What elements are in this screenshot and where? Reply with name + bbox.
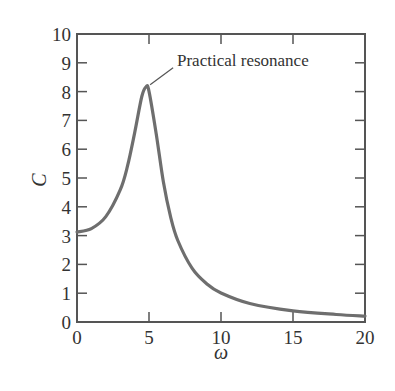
x-tick-label: 5 [144,327,154,348]
resonance-chart: 05101520012345678910 Practical resonance… [0,0,395,391]
resonance-curve [77,86,365,316]
y-tick-label: 9 [62,53,72,74]
y-tick-label: 6 [62,139,72,160]
y-tick-label: 0 [62,312,72,333]
y-tick-label: 2 [62,254,72,275]
x-axis-label: ω [214,341,228,363]
annotation-leader-line [150,68,173,85]
x-tick-label: 0 [72,327,82,348]
x-tick-label: 20 [356,327,375,348]
y-tick-label: 4 [62,197,72,218]
y-tick-label: 5 [62,168,72,189]
x-tick-label: 15 [284,327,303,348]
y-tick-label: 1 [62,283,72,304]
tick-labels: 05101520012345678910 [52,24,375,348]
y-tick-label: 8 [62,82,72,103]
y-tick-label: 10 [52,24,71,45]
y-axis-label: C [28,173,50,187]
annotation-practical-resonance: Practical resonance [177,51,309,70]
y-tick-label: 3 [62,226,72,247]
axis-ticks [77,34,365,322]
y-tick-label: 7 [62,110,72,131]
plot-frame [77,34,365,322]
